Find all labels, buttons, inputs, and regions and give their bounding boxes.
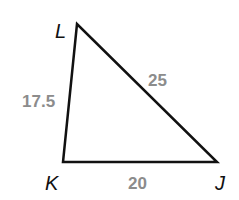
side-label-LK: 17.5 [22, 92, 55, 111]
triangle-LKJ [63, 24, 217, 162]
side-label-KJ: 20 [128, 174, 147, 193]
triangle-diagram: L K J 17.5 25 20 [0, 0, 239, 200]
vertex-label-J: J [214, 172, 226, 194]
vertex-label-L: L [55, 20, 66, 42]
side-label-LJ: 25 [148, 71, 167, 90]
vertex-label-K: K [45, 172, 60, 194]
